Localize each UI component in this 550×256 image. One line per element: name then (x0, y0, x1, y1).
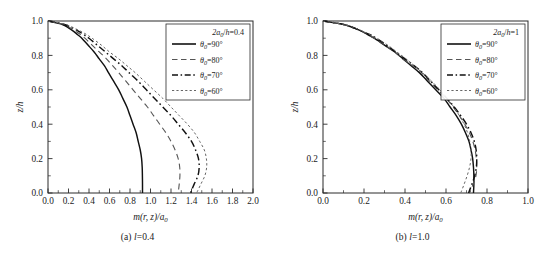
legend-label: θ0=80° (200, 56, 223, 66)
x-tick-label: 1.8 (227, 196, 239, 206)
panel-caption: (b) l=1.0 (275, 232, 550, 242)
y-axis-title: z/h (15, 101, 25, 113)
x-tick-label: 0.8 (481, 196, 493, 206)
figure-container: 0.00.20.40.60.81.01.21.41.61.82.00.00.20… (0, 0, 550, 256)
curve-theta0=80 (48, 21, 180, 193)
x-tick-label: 0.8 (124, 196, 136, 206)
panel-a-plot: 0.00.20.40.60.81.01.21.41.61.82.00.00.20… (0, 0, 275, 256)
legend-label: θ0=90° (475, 40, 498, 50)
y-tick-label: 0.8 (31, 51, 43, 61)
y-axis-title: z/h (290, 101, 300, 113)
y-tick-label: 0.0 (31, 188, 43, 198)
x-tick-label: 0.0 (317, 196, 329, 206)
panel-b-plot: 0.00.20.40.60.81.00.00.20.40.60.81.0m(r,… (275, 0, 550, 256)
legend-label: θ0=70° (200, 71, 223, 81)
x-tick-label: 1.2 (165, 196, 177, 206)
x-axis-title: m(r, z)/a0 (408, 212, 443, 223)
y-tick-label: 1.0 (31, 16, 43, 26)
legend-label: θ0=80° (475, 56, 498, 66)
y-axis-ticks: 0.00.20.40.60.81.0 (31, 16, 52, 198)
y-tick-label: 1.0 (306, 16, 318, 26)
x-axis-title: m(r, z)/a0 (133, 212, 168, 223)
legend: 2a0/h=1θ0=90°θ0=80°θ0=70°θ0=60° (441, 24, 525, 100)
x-tick-label: 0.4 (399, 196, 411, 206)
x-tick-label: 0.2 (63, 196, 75, 206)
legend-label: θ0=90° (200, 40, 223, 50)
curve-theta0=90 (48, 21, 143, 193)
x-tick-label: 1.0 (522, 196, 534, 206)
x-tick-label: 1.4 (186, 196, 198, 206)
panel-caption: (a) l=0.4 (0, 232, 275, 242)
x-tick-label: 2.0 (247, 196, 259, 206)
legend-title: 2a0/h=1 (493, 28, 519, 38)
x-tick-label: 1.6 (206, 196, 218, 206)
y-tick-label: 0.4 (306, 120, 318, 130)
legend-title: 2a0/h=0.4 (212, 28, 244, 38)
x-tick-label: 0.4 (83, 196, 95, 206)
x-tick-label: 1.0 (145, 196, 157, 206)
legend-label: θ0=60° (475, 87, 498, 97)
x-tick-label: 0.6 (104, 196, 116, 206)
x-tick-label: 0.0 (42, 196, 54, 206)
y-tick-label: 0.2 (31, 154, 43, 164)
legend-label: θ0=60° (200, 87, 223, 97)
x-axis-ticks: 0.00.20.40.60.81.0 (317, 189, 534, 207)
x-axis-ticks: 0.00.20.40.60.81.01.21.41.61.82.0 (42, 189, 259, 207)
y-axis-ticks: 0.00.20.40.60.81.0 (306, 16, 327, 198)
legend-label: θ0=70° (475, 71, 498, 81)
y-tick-label: 0.4 (31, 120, 43, 130)
y-tick-label: 0.2 (306, 154, 318, 164)
panel-b: 0.00.20.40.60.81.00.00.20.40.60.81.0m(r,… (275, 0, 550, 256)
legend: 2a0/h=0.4θ0=90°θ0=80°θ0=70°θ0=60° (166, 24, 250, 100)
y-tick-label: 0.0 (306, 188, 318, 198)
x-tick-label: 0.2 (358, 196, 370, 206)
y-tick-label: 0.6 (31, 85, 43, 95)
y-tick-label: 0.6 (306, 85, 318, 95)
panel-a: 0.00.20.40.60.81.01.21.41.61.82.00.00.20… (0, 0, 275, 256)
y-tick-label: 0.8 (306, 51, 318, 61)
x-tick-label: 0.6 (440, 196, 452, 206)
